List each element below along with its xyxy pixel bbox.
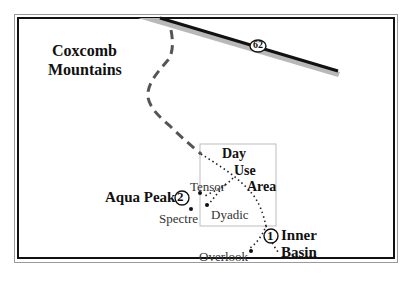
label-day: Day <box>222 147 246 161</box>
overlook-dot <box>249 249 253 253</box>
inner-basin-marker-number: 1 <box>267 229 274 242</box>
highway-shadow <box>138 18 340 77</box>
route-62-number: 62 <box>253 40 263 50</box>
label-mountains: Mountains <box>48 62 122 78</box>
label-use: Use <box>234 164 256 178</box>
label-tensor: Tensor <box>190 180 225 193</box>
aqua-peak-marker-number: 2 <box>177 190 184 203</box>
dyadic-dot <box>205 203 209 207</box>
label-inner: Inner <box>281 228 317 243</box>
map-canvas: Coxcomb Mountains 62 Day Use Area Tensor… <box>0 0 416 284</box>
label-area: Area <box>247 180 276 194</box>
label-overlook: Overlook <box>199 250 248 263</box>
label-coxcomb: Coxcomb <box>52 43 117 59</box>
label-dyadic: Dyadic <box>211 208 249 221</box>
label-spectre: Spectre <box>159 212 198 225</box>
dashed-trail <box>148 30 201 154</box>
label-aqua-peak: Aqua Peak <box>105 190 175 205</box>
label-basin: Basin <box>281 245 317 260</box>
highway-62 <box>160 18 338 71</box>
